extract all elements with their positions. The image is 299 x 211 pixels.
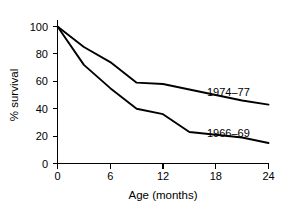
y-tick-label-0: 0 [42, 158, 48, 170]
x-tick-label-18: 18 [210, 170, 222, 182]
x-tick-label-0: 0 [54, 170, 60, 182]
y-axis-title: % survival [8, 69, 20, 121]
x-tick-label-6: 6 [107, 170, 113, 182]
y-tick-label-100: 100 [30, 21, 48, 33]
series-label-1974-77: 1974–77 [207, 86, 250, 98]
x-axis-title: Age (months) [128, 189, 197, 201]
chart-canvas: 100 80 60 40 20 0 0 6 12 18 24 Age (mont… [0, 0, 299, 211]
x-tick-label-24: 24 [262, 170, 274, 182]
y-tick-label-80: 80 [36, 48, 48, 60]
series-label-1966-69: 1966–69 [207, 127, 250, 139]
y-tick-label-20: 20 [36, 130, 48, 142]
y-tick-label-60: 60 [36, 75, 48, 87]
survival-chart: 100 80 60 40 20 0 0 6 12 18 24 Age (mont… [0, 0, 299, 211]
y-tick-label-40: 40 [36, 103, 48, 115]
x-tick-label-12: 12 [157, 170, 169, 182]
